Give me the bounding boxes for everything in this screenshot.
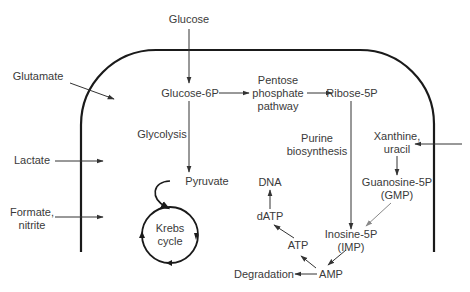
arrow-atp-to-datp [274, 225, 294, 238]
node-guanosine-line1: Guanosine-5P [362, 176, 432, 189]
node-pyruvate: Pyruvate [185, 175, 228, 188]
krebs-arrowhead-bottom [166, 260, 172, 266]
node-ribose-5p: Ribose-5P [326, 87, 377, 100]
node-datp: dATP [257, 210, 284, 223]
node-pentose-phosphate-line3: pathway [258, 100, 299, 113]
node-formate-line1: Formate, [10, 206, 54, 219]
node-inosine-line2: (IMP) [338, 241, 365, 254]
label-purine-line2: biosynthesis [287, 145, 348, 158]
node-guanosine-line2: (GMP) [381, 189, 413, 202]
node-dna: DNA [258, 176, 281, 189]
node-glucose-6p: Glucose-6P [161, 87, 218, 100]
node-xanthine-line1: Xanthine, [374, 130, 420, 143]
node-inosine-line1: Inosine-5P [325, 228, 378, 241]
label-glycolysis: Glycolysis [137, 128, 187, 141]
node-glucose: Glucose [169, 13, 209, 26]
node-formate-line2: nitrite [19, 219, 46, 232]
node-pentose-phosphate-line2: phosphate [252, 87, 303, 100]
arrow-amp-to-atp [301, 256, 316, 268]
node-xanthine-line2: uracil [384, 143, 410, 156]
node-glutamate: Glutamate [13, 70, 64, 83]
node-pentose-phosphate-line1: Pentose [258, 74, 298, 87]
arrow-gmp-to-imp [366, 203, 391, 226]
krebs-arrowhead-left [139, 231, 145, 238]
arrow-pyruvate-to-krebs [155, 181, 170, 207]
metabolic-diagram: Glucose Glutamate Glucose-6P Pentose pho… [0, 0, 470, 292]
node-amp: AMP [319, 268, 343, 281]
node-krebs-line2: cycle [157, 235, 182, 248]
node-lactate: Lactate [14, 154, 50, 167]
node-krebs-line1: Krebs [156, 222, 185, 235]
label-purine-line1: Purine [301, 132, 333, 145]
node-atp: ATP [288, 239, 309, 252]
node-degradation: Degradation [234, 268, 294, 281]
